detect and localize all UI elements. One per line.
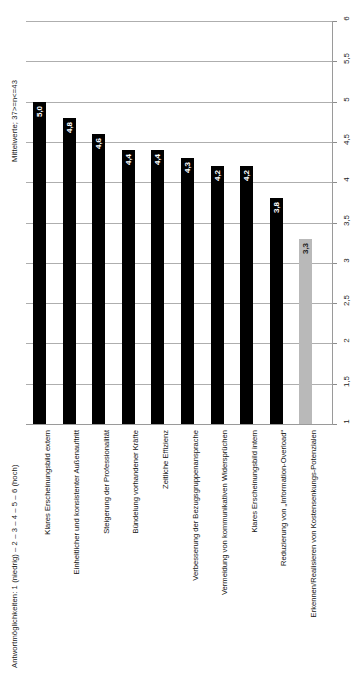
category-label: Steigerung der Professionalität [102,190,111,430]
y-tick-label: 1,5 [338,377,355,386]
tick-mark [333,21,337,22]
sample-size-caption: Mittelwerte; 37>=n<=43 [10,80,19,162]
answer-scale-caption: Antwortmöglichkeiten: 1 (niedrig) – 2 – … [10,464,19,668]
bar-value-label: 5,0 [33,105,46,118]
bar-value-label: 4,2 [211,169,224,182]
bar-value-label: 4,2 [240,169,253,182]
gridline [26,102,333,103]
bar-value-label: 4,6 [92,137,105,150]
category-label: Klares Erscheinungsbild intern [250,190,259,430]
y-tick-label: 2,5 [338,296,355,305]
tick-mark [333,142,337,143]
gridline [26,61,333,62]
y-tick-label: 4,5 [338,135,355,144]
y-tick-label: 4 [338,175,355,184]
tick-mark [333,182,337,183]
category-label: Vermeidung von kommunikativen Widersprüc… [220,190,229,430]
y-tick-label: 1 [338,417,355,426]
category-label: Bündelung vorhandener Kräfte [131,190,140,430]
tick-mark [333,102,337,103]
bar-value-label: 4,4 [151,153,164,166]
y-tick-label: 5 [338,95,355,104]
tick-mark [333,303,337,304]
category-label: Zeitliche Effizienz [161,190,170,430]
tick-mark [333,61,337,62]
category-label: Verbesserung der Bezugsgruppenansprache [191,190,200,430]
category-label: Erkennen/Realisieren von Kostensenkungs-… [309,190,318,430]
tick-mark [333,223,337,224]
tick-mark [333,424,337,425]
category-label: Reduzierung von „Information-Overload“ [279,190,288,430]
bar-value-label: 4,8 [63,121,76,134]
bar-value-label: 4,3 [181,161,194,174]
tick-mark [333,384,337,385]
bar-chart-figure: Mittelwerte; 37>=n<=43 Antwortmöglichkei… [0,0,355,674]
category-label: Klares Erscheinungsbild extern [43,190,52,430]
y-tick-label: 3 [338,256,355,265]
tick-mark [333,343,337,344]
y-tick-label: 3,5 [338,216,355,225]
y-tick-label: 5,5 [338,54,355,63]
category-label: Einheitlicher und konsistenter Außenauft… [72,190,81,430]
y-tick-label: 2 [338,336,355,345]
y-tick-label: 6 [338,14,355,23]
bar-value-label: 4,4 [122,153,135,166]
gridline [26,21,333,22]
tick-mark [333,263,337,264]
